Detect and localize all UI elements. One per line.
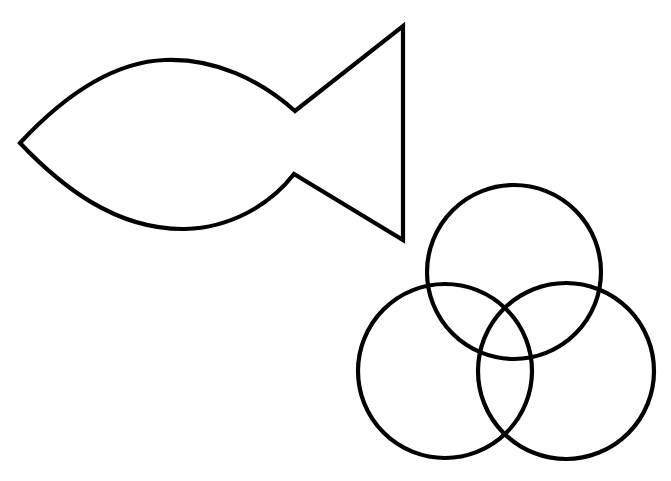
drawing-canvas: Fish outline Three overlapping circles xyxy=(0,0,671,481)
shapes-svg xyxy=(0,0,671,481)
venn-circle-top-icon xyxy=(427,185,601,359)
fish-outline-icon xyxy=(20,26,403,240)
venn-circle-bottom-left-icon xyxy=(358,284,532,458)
venn-circle-bottom-right-icon xyxy=(478,283,654,459)
